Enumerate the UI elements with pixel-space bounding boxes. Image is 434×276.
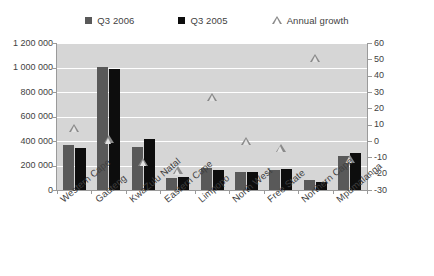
x-axis-category-labels: Western CapeGautengKwaZulu NatalEastern … (0, 190, 434, 276)
legend-label: Annual growth (287, 15, 349, 26)
right-axis-tick (368, 92, 372, 93)
growth-marker-inner (105, 138, 111, 144)
chart-container: Q3 2006 Q3 2005 Annual growth 1 200 0001… (0, 0, 434, 276)
x-axis-tick (264, 190, 265, 194)
left-axis-tick-label: 1 000 000 (1, 63, 53, 72)
gridline (57, 43, 367, 44)
right-axis-tick-label: 40 (374, 71, 408, 80)
left-axis-tick-label: 600 000 (1, 112, 53, 121)
right-axis-tick (368, 174, 372, 175)
growth-marker-inner (140, 160, 146, 166)
left-axis-tick (52, 166, 56, 167)
right-axis-tick (368, 125, 372, 126)
right-axis-tick-label: 30 (374, 88, 408, 97)
right-axis-tick-label: -10 (374, 153, 408, 162)
left-axis-tick (52, 190, 56, 191)
x-axis-tick (195, 190, 196, 194)
x-axis-tick (126, 190, 127, 194)
right-axis-tick (368, 141, 372, 142)
left-axis-tick (52, 141, 56, 142)
growth-marker-inner (243, 139, 249, 145)
right-axis-tick (368, 76, 372, 77)
right-axis-tick-label: 10 (374, 120, 408, 129)
growth-marker-inner (277, 146, 283, 152)
growth-marker (104, 135, 114, 143)
growth-marker (138, 158, 148, 166)
legend-item-q3-2006: Q3 2006 (85, 15, 134, 26)
right-axis-tick-label: 60 (374, 39, 408, 48)
left-axis-tick (52, 92, 56, 93)
x-axis-tick (57, 190, 58, 194)
square-swatch-icon (178, 17, 185, 24)
triangle-marker-icon (272, 16, 282, 24)
legend-label: Q3 2006 (97, 15, 134, 26)
growth-marker (207, 93, 217, 101)
x-axis-tick (367, 190, 368, 194)
right-axis-tick (368, 190, 372, 191)
growth-marker-inner (312, 56, 318, 62)
left-axis-tick (52, 68, 56, 69)
bar-q3-2005 (109, 69, 120, 190)
square-swatch-icon (85, 17, 92, 24)
right-axis-tick (368, 59, 372, 60)
left-axis-tick-label: 800 000 (1, 88, 53, 97)
left-axis-tick (52, 43, 56, 44)
left-axis-tick-label: 400 000 (1, 137, 53, 146)
growth-marker-inner (71, 126, 77, 132)
legend-item-q3-2005: Q3 2005 (178, 15, 227, 26)
growth-marker (310, 54, 320, 62)
right-axis-tick (368, 108, 372, 109)
left-axis-tick-label: 1 200 000 (1, 39, 53, 48)
growth-marker (276, 144, 286, 152)
legend-item-annual-growth: Annual growth (272, 15, 349, 26)
left-axis-tick-label: 200 000 (1, 161, 53, 170)
x-axis-tick (91, 190, 92, 194)
legend-label: Q3 2005 (190, 15, 227, 26)
right-axis-tick-label: 50 (374, 55, 408, 64)
growth-marker-inner (209, 95, 215, 101)
growth-marker (241, 137, 251, 145)
right-axis-tick-label: 0 (374, 137, 408, 146)
right-axis-tick-label: 20 (374, 104, 408, 113)
x-axis-tick (333, 190, 334, 194)
x-axis-tick (298, 190, 299, 194)
x-axis-tick (229, 190, 230, 194)
chart-legend: Q3 2006 Q3 2005 Annual growth (0, 12, 434, 28)
left-axis-line (56, 43, 57, 191)
right-axis-tick (368, 157, 372, 158)
x-axis-tick (160, 190, 161, 194)
right-axis-tick (368, 43, 372, 44)
left-axis-tick (52, 117, 56, 118)
growth-marker (69, 124, 79, 132)
